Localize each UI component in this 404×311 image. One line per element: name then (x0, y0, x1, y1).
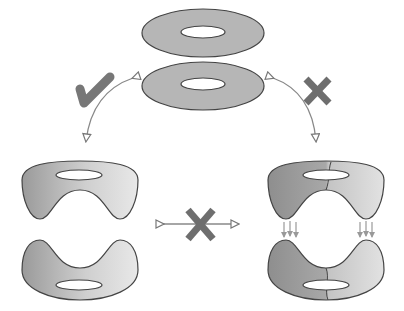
curved-double-arrow-left (86, 78, 133, 141)
right-halves (268, 161, 384, 300)
gluing-arrows-right (360, 221, 372, 237)
diagram-canvas (0, 0, 404, 311)
gluing-arrows (284, 221, 372, 237)
right-upper-half (268, 161, 384, 219)
gluing-arrows-left (284, 221, 296, 237)
left-upper-half (22, 161, 138, 219)
right-transition (273, 78, 329, 141)
x-mark-icon (306, 79, 329, 103)
left-halves (22, 161, 138, 300)
middle-transition (163, 210, 238, 239)
torus-lower (142, 62, 264, 110)
top-tori (142, 9, 264, 110)
left-transition (80, 77, 133, 141)
torus-upper (142, 9, 264, 57)
right-lower-half (268, 240, 384, 300)
left-lower-half (22, 240, 138, 300)
check-mark-icon (80, 77, 110, 103)
